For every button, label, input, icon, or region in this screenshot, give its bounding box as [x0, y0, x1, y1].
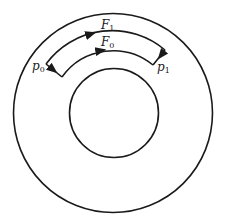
path-f0-arc: [62, 51, 153, 77]
p0-connector-arrow-icon: [49, 66, 54, 70]
label-f1: F1: [101, 19, 114, 33]
inner-circle: [70, 69, 159, 158]
label-p1: p1: [157, 61, 170, 75]
label-p0: p0: [32, 60, 45, 74]
label-f0: F0: [101, 36, 114, 50]
annulus-diagram: [0, 0, 225, 223]
